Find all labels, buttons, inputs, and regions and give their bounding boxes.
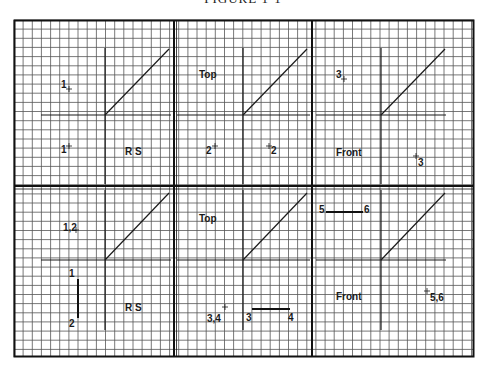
point-label: 1: [61, 144, 67, 155]
point-label: 3: [336, 69, 342, 80]
line-segments: [78, 212, 363, 318]
view-label-front: Front: [336, 291, 362, 302]
point-label: 5,6: [430, 292, 444, 303]
point-label: 2: [206, 145, 212, 156]
line-end-label: 6: [364, 204, 370, 215]
orthographic-projection-grid: 1 1 R S Top 2 2 3 Front 3 1,2 1 2 R S To…: [0, 0, 486, 371]
graph-paper-grid: [14, 20, 474, 357]
line-end-label: 3: [246, 312, 252, 323]
point-label: 3: [418, 157, 424, 168]
line-end-label: 4: [288, 312, 294, 323]
line-end-label: 2: [69, 318, 75, 329]
point-label: 3,4: [207, 313, 221, 324]
point-label: 1: [61, 79, 67, 90]
view-label-top: Top: [199, 213, 217, 224]
view-label-top: Top: [199, 69, 217, 80]
view-label-rs: R S: [125, 302, 142, 313]
panel-frame: [14, 20, 474, 357]
line-end-label: 5: [319, 204, 325, 215]
line-end-label: 1: [69, 268, 75, 279]
view-label-front: Front: [336, 147, 362, 158]
view-label-rs: R S: [125, 146, 142, 157]
point-label: 1,2: [63, 222, 77, 233]
point-label: 2: [271, 145, 277, 156]
